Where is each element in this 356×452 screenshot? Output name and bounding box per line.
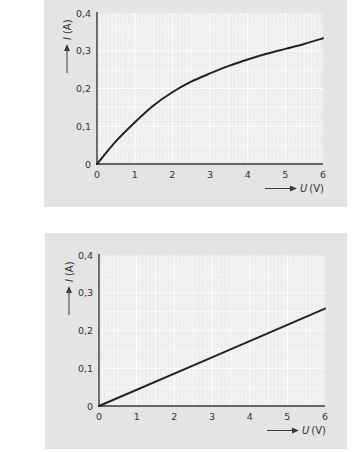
arrow-up-icon	[66, 286, 72, 293]
y-tick-label: 0	[87, 401, 93, 412]
chart-bottom-linear: 012345600,10,20,30,4U(V)I(A)	[0, 0, 356, 452]
y-tick-label: 0,4	[78, 250, 93, 261]
x-tick-label: 4	[247, 411, 253, 422]
y-tick-label: 0,3	[78, 287, 93, 298]
grid	[99, 255, 325, 406]
x-tick-label: 2	[171, 411, 177, 422]
x-axis-label: U(V)	[267, 425, 326, 436]
x-tick-label: 0	[96, 411, 102, 422]
x-tick-label: 6	[322, 411, 328, 422]
svg-text:U(V): U(V)	[302, 425, 326, 436]
x-tick-label: 1	[134, 411, 140, 422]
y-axis-label: I(A)	[64, 261, 75, 315]
svg-text:I(A): I(A)	[64, 261, 75, 282]
x-tick-label: 3	[209, 411, 215, 422]
arrow-right-icon	[292, 428, 299, 434]
y-tick-label: 0,2	[78, 325, 93, 336]
y-tick-label: 0,1	[78, 363, 93, 374]
x-tick-label: 5	[284, 411, 290, 422]
